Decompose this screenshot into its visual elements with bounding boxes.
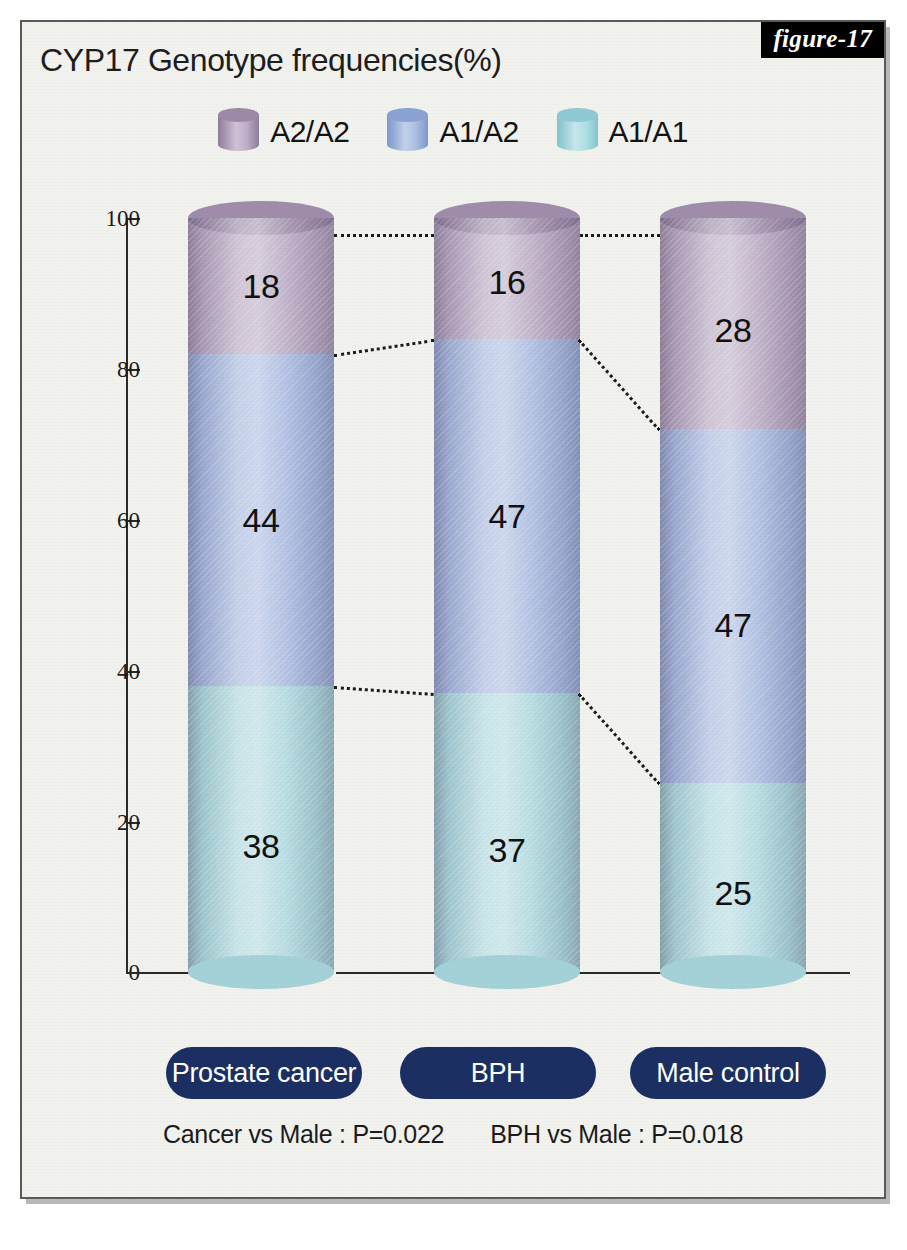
bar-value-label: 37 xyxy=(434,831,580,870)
legend-item-a1a1[interactable]: A1/A1 xyxy=(557,108,688,155)
bar-value-label: 16 xyxy=(434,263,580,302)
y-tick-label-100: 100 xyxy=(94,206,140,232)
cylinder-bottom-cap xyxy=(660,955,806,989)
legend-cylinder-icon xyxy=(557,108,598,155)
connector-top-1to2 xyxy=(334,234,434,237)
connector-top-2to3 xyxy=(580,234,660,237)
legend-label-a2a2: A2/A2 xyxy=(270,115,349,149)
legend-cylinder-icon xyxy=(387,108,428,155)
legend-label-a1a1: A1/A1 xyxy=(609,115,688,149)
bar-segment-a2a2[interactable]: 18 xyxy=(188,218,334,354)
legend-label-a1a2: A1/A2 xyxy=(439,115,518,149)
bar-male-control[interactable]: 28 47 25 xyxy=(660,218,806,972)
figure-panel: figure-17 CYP17 Genotype frequencies(%) … xyxy=(20,20,886,1199)
chart-legend: A2/A2 A1/A2 A1/A1 xyxy=(22,108,884,155)
footnote-row: Cancer vs Male : P=0.022 BPH vs Male : P… xyxy=(22,1120,884,1149)
connector-purple-2to3 xyxy=(578,339,660,431)
cylinder-top-cap xyxy=(188,201,334,235)
bar-value-label: 44 xyxy=(188,501,334,540)
bar-value-label: 38 xyxy=(188,827,334,866)
bar-bph[interactable]: 16 47 37 xyxy=(434,218,580,972)
legend-cylinder-icon xyxy=(218,108,259,155)
cylinder-bottom-cap xyxy=(188,955,334,989)
legend-item-a2a2[interactable]: A2/A2 xyxy=(218,108,349,155)
category-label-male-control[interactable]: Male control xyxy=(630,1047,826,1099)
bar-prostate-cancer[interactable]: 18 44 38 xyxy=(188,218,334,972)
bar-segment-a1a1[interactable]: 37 xyxy=(434,693,580,972)
cylinder-bottom-cap xyxy=(434,955,580,989)
baseline-segment xyxy=(126,972,190,974)
bar-segment-a1a2[interactable]: 47 xyxy=(660,429,806,783)
bar-segment-a1a2[interactable]: 47 xyxy=(434,339,580,693)
figure-root: figure-17 CYP17 Genotype frequencies(%) … xyxy=(0,0,907,1250)
bar-value-label: 28 xyxy=(660,311,806,350)
bar-segment-a2a2[interactable]: 16 xyxy=(434,218,580,339)
footnote-cancer-vs-male: Cancer vs Male : P=0.022 xyxy=(163,1120,444,1149)
y-tick-label-20: 20 xyxy=(94,810,140,836)
footnote-bph-vs-male: BPH vs Male : P=0.018 xyxy=(490,1120,743,1149)
legend-item-a1a2[interactable]: A1/A2 xyxy=(387,108,518,155)
category-label-prostate-cancer[interactable]: Prostate cancer xyxy=(166,1047,362,1099)
bar-segment-a1a2[interactable]: 44 xyxy=(188,354,334,686)
connector-purple-1to2 xyxy=(334,339,434,357)
bar-value-label: 47 xyxy=(434,497,580,536)
y-tick-label-60: 60 xyxy=(94,508,140,534)
bar-value-label: 47 xyxy=(660,606,806,645)
cylinder-top-cap xyxy=(434,201,580,235)
bar-value-label: 25 xyxy=(660,874,806,913)
bar-value-label: 18 xyxy=(188,267,334,306)
y-axis-line xyxy=(126,218,128,973)
figure-number-badge: figure-17 xyxy=(761,22,884,58)
category-label-bph[interactable]: BPH xyxy=(400,1047,596,1099)
y-tick-label-80: 80 xyxy=(94,357,140,383)
plot-area: 100 80 60 40 20 0 18 xyxy=(22,22,884,1197)
bar-segment-a1a1[interactable]: 25 xyxy=(660,783,806,972)
y-tick-label-40: 40 xyxy=(94,659,140,685)
connector-blue-2to3 xyxy=(578,693,660,785)
baseline-segment xyxy=(336,972,436,974)
bar-segment-a1a1[interactable]: 38 xyxy=(188,686,334,972)
connector-blue-1to2 xyxy=(334,686,434,696)
cylinder-top-cap xyxy=(660,201,806,235)
bar-segment-a2a2[interactable]: 28 xyxy=(660,218,806,429)
